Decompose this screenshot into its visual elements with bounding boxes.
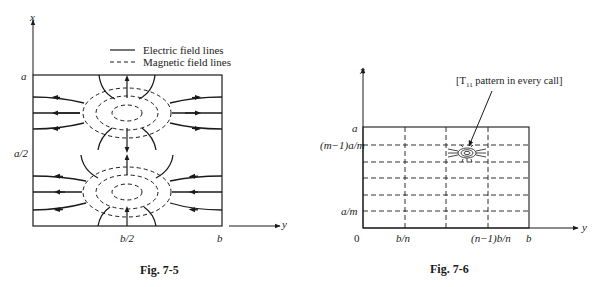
- fig5-tick-b-half: b/2: [120, 233, 134, 244]
- legend-magnetic-label: Magnetic field lines: [143, 57, 231, 68]
- t11-pattern: [448, 145, 486, 162]
- annotation-suffix: pattern in every call]: [473, 75, 563, 86]
- t11-annotation: [T11 pattern in every call]: [456, 75, 562, 89]
- fig5-y-axis-label: y: [282, 219, 287, 230]
- legend-electric-label: Electric field lines: [143, 45, 224, 56]
- fig5-caption: Fig. 7-5: [140, 263, 179, 278]
- fig6-tick-b: b: [526, 233, 532, 244]
- fig6-origin: 0: [354, 233, 360, 244]
- fig5-tick-a-half: a/2: [14, 148, 28, 159]
- upper-field-cell: [33, 75, 222, 150]
- fig6-tick-b-over-n: b/n: [396, 233, 410, 244]
- fig5-x-axis-label: x: [30, 12, 35, 23]
- fig6-tick-m-minus-1: (m−1)a/m: [320, 140, 365, 151]
- annotation-prefix: [T: [456, 75, 466, 86]
- fig5-tick-b: b: [217, 233, 223, 244]
- fig6-tick-a: a: [352, 123, 358, 134]
- fig6-x-axis-label: x: [360, 65, 365, 76]
- fig5-tick-a: a: [21, 71, 27, 82]
- annotation-subscript: 11: [466, 81, 473, 89]
- fig-7-6-graphic: [363, 68, 578, 228]
- fig6-caption: Fig. 7-6: [430, 262, 469, 277]
- fig6-y-axis-label: y: [582, 222, 587, 233]
- lower-field-cell: [33, 155, 222, 226]
- fig6-tick-n-minus-1: (n−1)b/n: [471, 233, 511, 244]
- grid-lines: [363, 127, 529, 228]
- fig6-tick-a-over-m: a/m: [341, 206, 358, 217]
- annotation-arrow: [469, 91, 492, 146]
